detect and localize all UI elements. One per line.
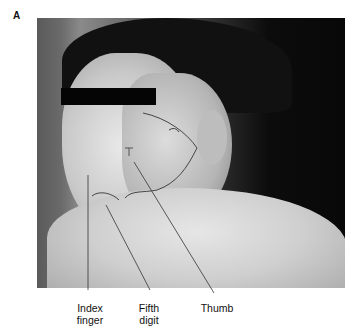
- leader-lines: [0, 0, 361, 336]
- label-thumb: Thumb: [192, 302, 242, 314]
- label-line: finger: [68, 314, 112, 326]
- label-line: digit: [127, 314, 171, 326]
- label-index-finger: Index finger: [68, 302, 112, 326]
- label-line: Fifth: [127, 302, 171, 314]
- label-fifth-digit: Fifth digit: [127, 302, 171, 326]
- label-line: Thumb: [192, 302, 242, 314]
- label-line: Index: [68, 302, 112, 314]
